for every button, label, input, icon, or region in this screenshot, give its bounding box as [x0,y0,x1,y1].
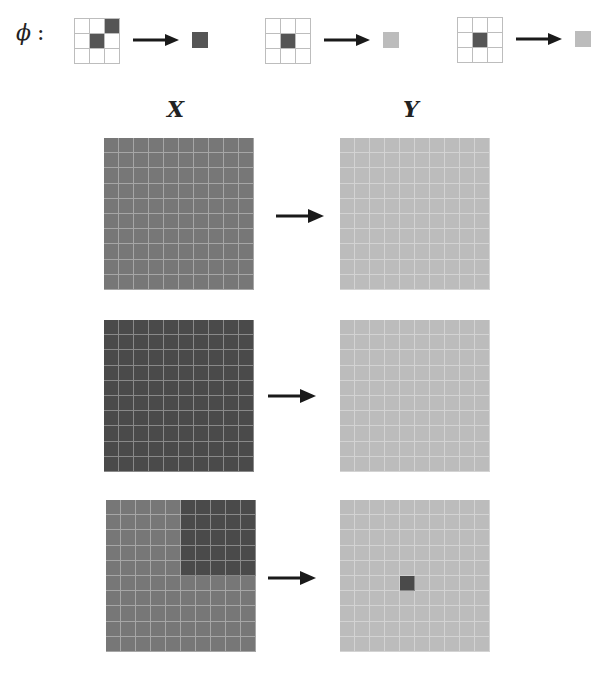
grid-cell [164,260,179,275]
grid-cell [119,214,134,229]
grid-cell [385,637,400,652]
grid-cell [370,576,385,591]
grid-cell [164,168,179,183]
grid-cell [164,138,179,153]
grid-cell [209,457,224,472]
grid-cell [415,457,430,472]
grid-cell [136,530,151,545]
grid-cell [430,184,445,199]
grid-cell [106,637,121,652]
grid-cell [106,591,121,606]
grid-cell [134,396,149,411]
grid-cell [340,561,355,576]
arrow-icon [268,389,318,403]
rule-output-3 [575,31,591,47]
grid-cell [355,606,370,621]
grid-cell [385,168,400,183]
grid-cell [224,411,239,426]
grid-cell [385,546,400,561]
phi-symbol: ϕ [16,20,31,45]
grid-cell [340,396,355,411]
grid-cell [355,622,370,637]
grid-cell [224,244,239,259]
grid-cell [224,199,239,214]
grid-cell [194,153,209,168]
grid-cell [209,153,224,168]
grid-cell [121,500,136,515]
pattern-cell [75,19,90,34]
phi-colon: : [37,20,44,45]
grid-cell [340,320,355,335]
grid-cell [149,260,164,275]
grid-cell [475,546,490,561]
pattern-cell [266,34,281,49]
grid-cell [179,350,194,365]
grid-cell [164,184,179,199]
grid-cell [400,275,415,290]
grid-cell [475,426,490,441]
rule-output-2 [383,32,399,48]
grid-cell [385,622,400,637]
grid-cell [164,366,179,381]
grid-cell [211,622,226,637]
grid-cell [355,515,370,530]
grid-cell [430,606,445,621]
grid-cell [385,530,400,545]
grid-cell [164,442,179,457]
grid-cell [415,591,430,606]
grid-cell [385,153,400,168]
grid-cell [370,515,385,530]
grid-cell [370,381,385,396]
grid-cell [164,244,179,259]
grid-cell [430,168,445,183]
grid-cell [355,546,370,561]
grid-cell [209,229,224,244]
grid-cell [355,411,370,426]
grid-cell [385,138,400,153]
grid-cell [196,515,211,530]
grid-cell [134,275,149,290]
grid-cell [385,500,400,515]
grid-cell [194,442,209,457]
grid-cell [385,561,400,576]
grid-cell [445,530,460,545]
grid-cell [400,606,415,621]
grid-cell [179,275,194,290]
grid-cell [460,606,475,621]
grid-cell [119,381,134,396]
grid-cell [241,637,256,652]
grid-cell [119,396,134,411]
grid-cell [239,214,254,229]
grid-cell [400,229,415,244]
grid-cell [400,335,415,350]
grid-cell [136,637,151,652]
grid-cell [370,229,385,244]
grid-cell [239,366,254,381]
grid-cell [104,366,119,381]
grid-cell [121,515,136,530]
grid-cell [196,637,211,652]
grid-cell [415,229,430,244]
pattern-cell [90,19,105,34]
grid-cell [209,214,224,229]
grid-cell [400,515,415,530]
grid-cell [370,244,385,259]
grid-cell [151,591,166,606]
grid-cell [149,457,164,472]
pattern-cell [458,33,473,48]
grid-cell [134,244,149,259]
grid-cell [415,335,430,350]
grid-cell [355,396,370,411]
grid-cell [355,591,370,606]
grid-cell [239,426,254,441]
grid-cell [226,546,241,561]
grid-cell [460,515,475,530]
grid-cell [445,561,460,576]
grid-cell [224,168,239,183]
grid-cell [430,426,445,441]
grid-cell [241,561,256,576]
grid-cell [385,396,400,411]
grid-cell [475,515,490,530]
grid-cell [194,350,209,365]
grid-cell [475,275,490,290]
